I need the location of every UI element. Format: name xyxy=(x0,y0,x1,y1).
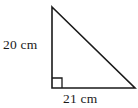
horizontal-leg-label: 21 cm xyxy=(63,92,97,106)
right-triangle-figure: 20 cm 21 cm xyxy=(0,0,138,108)
right-angle-marker-icon xyxy=(52,78,62,88)
right-angle-square-path xyxy=(52,78,62,88)
triangle-path xyxy=(52,7,135,88)
vertical-leg-label: 20 cm xyxy=(3,38,37,52)
triangle-outline xyxy=(52,7,135,88)
